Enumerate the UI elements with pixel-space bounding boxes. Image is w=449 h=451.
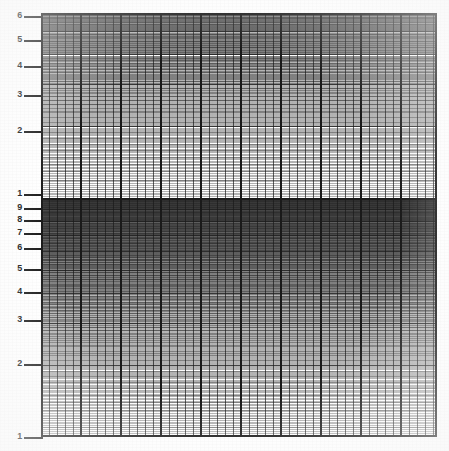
gridline-ultrafine-h — [41, 131, 437, 132]
gridline-ultrafine-h — [41, 385, 437, 386]
y-axis-leader-line — [24, 248, 43, 250]
gridline-ultrafine-h — [41, 133, 437, 134]
gridline-ultrafine-h — [41, 396, 437, 397]
gridline-ultrafine-h — [41, 193, 437, 194]
gridline-ultrafine-h — [41, 121, 437, 122]
gridline-ultrafine-h — [41, 350, 437, 351]
gridline-ultrafine-h — [41, 37, 437, 38]
y-axis-tick-label: 6 — [8, 243, 22, 252]
gridline-minor-v — [385, 13, 386, 437]
gridline-ultrafine-h — [41, 356, 437, 357]
gridline-minor-v — [129, 13, 130, 437]
gridline-ultrafine-h — [41, 349, 437, 350]
gridline-ultrafine-h — [41, 408, 437, 409]
gridline-ultrafine-h — [41, 308, 437, 309]
graph-paper-page: 654321987654321 — [0, 0, 449, 451]
gridline-ultrafine-h — [41, 348, 437, 349]
gridline-minor-v — [329, 13, 330, 437]
gridline-ultrafine-h — [41, 159, 437, 160]
gridline-ultrafine-h — [41, 140, 437, 141]
gridline-ultrafine-h — [41, 137, 437, 138]
y-axis-tick-label: 3 — [8, 315, 22, 324]
gridline-ultrafine-h — [41, 135, 437, 136]
gridline-ultrafine-h — [41, 275, 437, 276]
y-axis-tick-label: 9 — [8, 203, 22, 212]
gridline-ultrafine-h — [41, 420, 437, 421]
gridline-ultrafine-h — [41, 363, 437, 364]
gridline-ultrafine-h — [41, 181, 437, 182]
gridline-minor-v — [57, 13, 58, 437]
gridline-fine-h — [41, 427, 437, 428]
gridline-major-v — [280, 13, 282, 437]
gridline-major-v — [200, 13, 202, 437]
gridline-ultrafine-h — [41, 168, 437, 169]
y-axis-tick-label: 5 — [8, 264, 22, 273]
y-axis-leader-line — [24, 233, 43, 235]
gridline-minor-v — [313, 13, 314, 437]
gridline-ultrafine-h — [41, 64, 437, 65]
plot-area[interactable] — [41, 13, 437, 437]
gridline-ultrafine-h — [41, 134, 437, 135]
gridline-ultrafine-h — [41, 386, 437, 387]
gridline-ultrafine-h — [41, 191, 437, 192]
gridline-ultrafine-h — [41, 56, 437, 57]
gridline-ultrafine-h — [41, 284, 437, 285]
gridline-ultrafine-h — [41, 46, 437, 47]
gridline-ultrafine-h — [41, 380, 437, 381]
gridline-minor-v — [137, 13, 138, 437]
gridline-ultrafine-h — [41, 149, 437, 150]
gridline-ultrafine-h — [41, 361, 437, 362]
gridline-ultrafine-h — [41, 289, 437, 290]
gridline-minor-v — [89, 13, 90, 437]
gridline-ultrafine-h — [41, 347, 437, 348]
gridline-ultrafine-h — [41, 423, 437, 424]
gridline-ultrafine-h — [41, 367, 437, 368]
y-axis-leader-line — [24, 269, 43, 271]
gridline-ultrafine-h — [41, 314, 437, 315]
gridline-ultrafine-h — [41, 377, 437, 378]
gridline-ultrafine-h — [41, 58, 437, 59]
gridline-minor-v — [369, 13, 370, 437]
gridline-minor-v — [305, 13, 306, 437]
gridline-ultrafine-h — [41, 378, 437, 379]
gridline-ultrafine-h — [41, 413, 437, 414]
gridline-minor-v — [353, 13, 354, 437]
y-axis-tick-label: 1 — [8, 189, 22, 198]
gridline-ultrafine-h — [41, 76, 437, 77]
gridline-ultrafine-h — [41, 119, 437, 120]
gridline-ultrafine-h — [41, 69, 437, 70]
gridline-ultrafine-h — [41, 343, 437, 344]
gridline-ultrafine-h — [41, 39, 437, 40]
gridline-minor-v — [225, 13, 226, 437]
gridline-ultrafine-h — [41, 297, 437, 298]
gridline-major-v — [120, 13, 122, 437]
gridline-ultrafine-h — [41, 364, 437, 365]
y-axis-leader-line — [24, 437, 43, 439]
gridline-ultrafine-h — [41, 405, 437, 406]
gridline-ultrafine-h — [41, 154, 437, 155]
gridline-minor-v — [217, 13, 218, 437]
y-axis-leader-line — [24, 220, 43, 222]
gridline-ultrafine-h — [41, 151, 437, 152]
gridline-ultrafine-h — [41, 139, 437, 140]
gridline-ultrafine-h — [41, 407, 437, 408]
gridline-ultrafine-h — [41, 176, 437, 177]
gridline-ultrafine-h — [41, 79, 437, 80]
gridline-ultrafine-h — [41, 170, 437, 171]
gridline-minor-v — [73, 13, 74, 437]
gridline-ultrafine-h — [41, 175, 437, 176]
gridline-fine-h — [41, 189, 437, 190]
gridline-ultrafine-h — [41, 366, 437, 367]
gridline-ultrafine-h — [41, 411, 437, 412]
gridline-minor-v — [193, 13, 194, 437]
gridline-ultrafine-h — [41, 116, 437, 117]
gridline-ultrafine-h — [41, 120, 437, 121]
gridline-ultrafine-h — [41, 13, 437, 14]
gridline-major-h — [41, 198, 437, 200]
gridline-ultrafine-h — [41, 362, 437, 363]
gridline-ultrafine-h — [41, 96, 437, 97]
y-axis-tick-label: 6 — [8, 11, 22, 20]
gridline-major-v — [160, 13, 162, 437]
gridline-ultrafine-h — [41, 155, 437, 156]
gridline-minor-v — [153, 13, 154, 437]
